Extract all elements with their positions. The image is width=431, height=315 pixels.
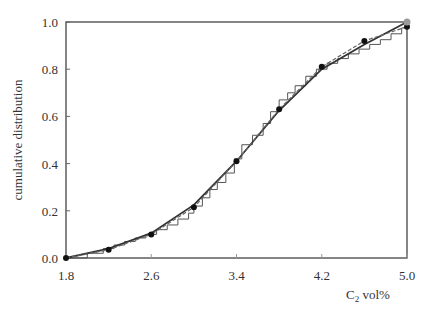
data-marker <box>148 231 154 237</box>
dashed-line <box>66 27 407 258</box>
x-tick-label: 5.0 <box>399 268 415 283</box>
step-line <box>66 28 407 258</box>
axis-ticks: 0.00.20.40.60.81.01.82.63.44.25.0 <box>42 15 415 283</box>
data-marker <box>319 64 325 70</box>
solid-fit-series <box>66 22 407 258</box>
y-axis-label: cumulative distribution <box>10 79 25 200</box>
data-marker <box>63 255 69 261</box>
plot-frame <box>66 22 407 258</box>
y-tick-label: 0.2 <box>42 204 58 219</box>
data-marker <box>276 106 282 112</box>
x-tick-label: 3.4 <box>228 268 245 283</box>
y-tick-label: 0.4 <box>42 157 59 172</box>
x-tick-label: 1.8 <box>58 268 74 283</box>
plot-area <box>66 22 407 258</box>
fit-line <box>66 22 407 258</box>
y-tick-label: 0.6 <box>42 109 59 124</box>
x-tick-label: 4.2 <box>314 268 330 283</box>
x-tick-label: 2.6 <box>143 268 160 283</box>
y-tick-label: 0.0 <box>42 251 58 266</box>
data-marker <box>191 204 197 210</box>
x-axis-label: C2 vol% <box>346 287 390 304</box>
y-tick-label: 0.8 <box>42 62 58 77</box>
cumulative-distribution-chart: 0.00.20.40.60.81.01.82.63.44.25.0 cumula… <box>0 0 431 315</box>
grey-endpoint-marker <box>404 19 411 26</box>
step-series <box>66 28 407 258</box>
dashed-data-series <box>63 19 411 262</box>
y-tick-label: 1.0 <box>42 15 58 30</box>
data-marker <box>234 158 240 164</box>
data-marker <box>361 38 367 44</box>
data-marker <box>106 247 112 253</box>
